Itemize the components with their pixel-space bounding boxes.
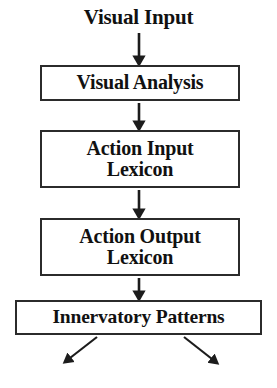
arrow-innervatory-output-left bbox=[70, 337, 97, 358]
arrow-innervatory-output-right bbox=[184, 337, 212, 359]
node-innervatory-patterns-label: Innervatory Patterns bbox=[48, 307, 228, 328]
node-visual-analysis-label: Visual Analysis bbox=[73, 72, 208, 93]
flowchart-diagram: Visual Input Visual Analysis Action Inpu… bbox=[0, 0, 277, 388]
node-visual-analysis: Visual Analysis bbox=[40, 65, 240, 101]
node-action-input-lexicon: Action Input Lexicon bbox=[40, 130, 240, 188]
node-action-output-lexicon-label: Action Output Lexicon bbox=[75, 226, 204, 268]
node-innervatory-patterns: Innervatory Patterns bbox=[15, 300, 262, 335]
node-action-output-lexicon: Action Output Lexicon bbox=[40, 218, 240, 276]
node-action-input-lexicon-label: Action Input Lexicon bbox=[82, 138, 197, 180]
node-visual-input: Visual Input bbox=[0, 6, 277, 29]
